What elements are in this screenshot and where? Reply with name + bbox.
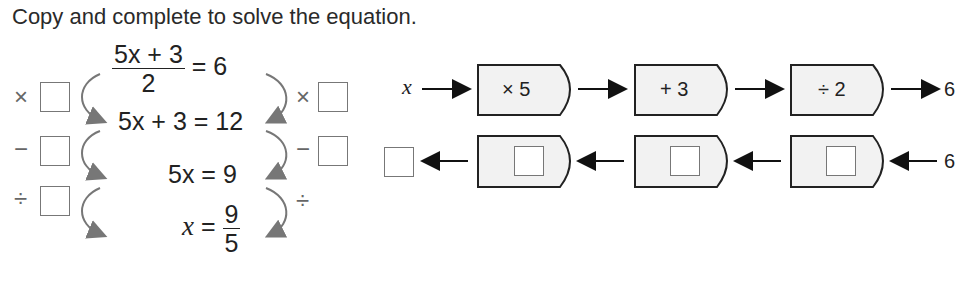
- right-multiply-sign: ×: [296, 83, 310, 111]
- machine-op-multiply-5: × 5: [502, 78, 530, 101]
- inverse-op-1-answer-box[interactable]: [514, 146, 544, 176]
- machine-op-divide-2: ÷ 2: [818, 78, 846, 101]
- left-subtract-answer-box[interactable]: [40, 136, 70, 166]
- step4-denominator: 5: [225, 229, 239, 257]
- left-multiply-sign: ×: [14, 83, 28, 111]
- step1-denominator: 2: [141, 69, 155, 97]
- right-multiply-answer-box[interactable]: [318, 82, 348, 112]
- machine-input-x: x: [402, 74, 412, 100]
- right-divide-sign: ÷: [296, 187, 309, 215]
- left-divide-answer-box[interactable]: [40, 186, 70, 216]
- equation-step-3: 5x = 9: [168, 160, 237, 189]
- left-subtract-sign: −: [14, 135, 28, 163]
- machine-op-add-3: + 3: [660, 78, 688, 101]
- inverse-op-3-answer-box[interactable]: [826, 146, 856, 176]
- step1-numerator: 5x + 3: [112, 40, 185, 69]
- left-divide-sign: ÷: [14, 185, 27, 213]
- step4-numerator: 9: [223, 200, 241, 229]
- step1-rhs: = 6: [192, 52, 227, 80]
- equation-step-2: 5x + 3 = 12: [118, 107, 243, 136]
- left-multiply-answer-box[interactable]: [40, 82, 70, 112]
- equation-step-1: 5x + 3 2 = 6: [112, 40, 227, 97]
- right-subtract-sign: −: [296, 135, 310, 163]
- right-subtract-answer-box[interactable]: [318, 136, 348, 166]
- machine-output-6: 6: [944, 78, 955, 101]
- step3-rhs: = 9: [201, 160, 236, 188]
- inverse-op-2-answer-box[interactable]: [670, 146, 700, 176]
- step4-lhs: x: [182, 211, 194, 241]
- step3-lhs: 5x: [168, 160, 194, 188]
- step4-equals: =: [201, 212, 216, 240]
- inverse-output-answer-box[interactable]: [384, 147, 414, 177]
- inverse-input-6: 6: [944, 150, 955, 173]
- equation-step-4: x = 9 5: [182, 200, 240, 257]
